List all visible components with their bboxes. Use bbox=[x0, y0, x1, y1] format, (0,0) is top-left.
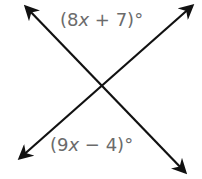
bottom-angle-label: (9x − 4)° bbox=[50, 134, 133, 155]
top-angle-label: (8x + 7)° bbox=[60, 9, 143, 30]
